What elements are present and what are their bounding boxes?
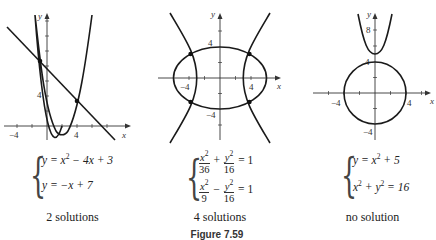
result-label-1: 2 solutions [10, 210, 135, 225]
equation-1: y = x2 + 5 [353, 152, 400, 166]
x-axis-label: x [276, 81, 281, 91]
y-axis-label: y [37, 11, 42, 21]
x-tick-label-neg4: −4 [180, 82, 190, 92]
y-axis-arrow [218, 13, 223, 19]
x-axis-label: x [429, 96, 434, 106]
equation-1: x236 + y216 = 1 [198, 148, 253, 175]
graph-parabola-line: y x −4 4 4 [0, 0, 145, 140]
equation-2: y = −x + 7 [42, 179, 93, 191]
x-axis-arrow [275, 76, 281, 81]
equation-system: { y = x2 − 4x + 3 y = −x + 7 [30, 148, 130, 206]
line-curve [7, 27, 115, 140]
x-tick-label-4: 4 [249, 82, 254, 92]
x-tick-label-4: 4 [74, 130, 79, 140]
x-tick-label-neg4: −4 [331, 98, 341, 108]
x-tick-label-4: 4 [407, 98, 412, 108]
x-axis-arrow [125, 124, 131, 129]
y-axis-label: y [210, 9, 215, 19]
graph-parabola-circle: y x −4 4 8 4 −4 [290, 0, 434, 140]
equation-1: y = x2 − 4x + 3 [42, 152, 113, 166]
intersection-point [188, 52, 193, 57]
system-panel-3: { y = x2 + 5 x2 + y2 = 16 [341, 148, 436, 206]
y-axis-arrow [373, 13, 378, 19]
intersection-point [38, 59, 43, 64]
result-label-2: 4 solutions [155, 210, 285, 225]
intersection-point [247, 100, 252, 105]
y-tick-label-neg4: −4 [363, 127, 373, 137]
figure-caption: Figure 7.59 [0, 229, 434, 240]
intersection-point [247, 52, 252, 57]
y-axis-arrow [45, 13, 50, 19]
equation-system: { y = x2 + 5 x2 + y2 = 16 [341, 148, 436, 206]
system-panel-1: { y = x2 − 4x + 3 y = −x + 7 [30, 148, 130, 206]
y-tick-label-8: 8 [366, 25, 371, 35]
y-tick-label-4: 4 [37, 90, 42, 100]
x-axis-arrow [425, 91, 431, 96]
graph-ellipse-hyperbola: y x −4 4 4 −4 [140, 0, 290, 140]
equation-2: x2 + y2 = 16 [353, 179, 409, 193]
y-axis-label: y [366, 9, 371, 19]
intersection-point [188, 100, 193, 105]
system-panel-2: { x236 + y216 = 1 x29 − y216 = 1 [186, 148, 286, 208]
equation-system: { x236 + y216 = 1 x29 − y216 = 1 [186, 148, 286, 208]
y-tick-label-4: 4 [208, 38, 213, 48]
intersection-point [75, 99, 80, 104]
parabola-curve [35, 15, 92, 137]
result-label-3: no solution [310, 210, 435, 225]
y-tick-label-neg4: −4 [206, 110, 216, 120]
x-axis-label: x [121, 130, 126, 140]
equation-2: x29 − y216 = 1 [198, 177, 253, 204]
x-tick-label-neg4: −4 [9, 130, 19, 140]
